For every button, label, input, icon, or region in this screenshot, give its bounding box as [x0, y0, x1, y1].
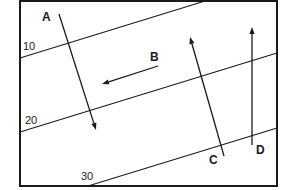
contour-label-30: 30 [81, 171, 93, 182]
arrow-label-b: B [150, 51, 159, 63]
arrowhead-icon [249, 27, 254, 34]
arrowhead-icon [189, 37, 194, 44]
flow-arrow-c [189, 37, 224, 156]
contour-line-30 [88, 128, 277, 186]
flow-arrow-d [249, 27, 254, 145]
arrowhead-icon [91, 123, 96, 130]
arrow-label-c: C [209, 154, 218, 166]
flow-arrow-b [102, 66, 158, 84]
flow-arrow-a [59, 14, 96, 130]
contour-label-10: 10 [23, 41, 35, 52]
arrow-label-a: A [42, 11, 51, 23]
map-frame [20, 1, 277, 186]
contour-line-20 [20, 53, 277, 132]
arrow-label-d: D [256, 144, 265, 156]
contour-diagram [0, 0, 286, 190]
contour-label-20: 20 [25, 115, 37, 126]
arrowhead-icon [102, 79, 109, 84]
